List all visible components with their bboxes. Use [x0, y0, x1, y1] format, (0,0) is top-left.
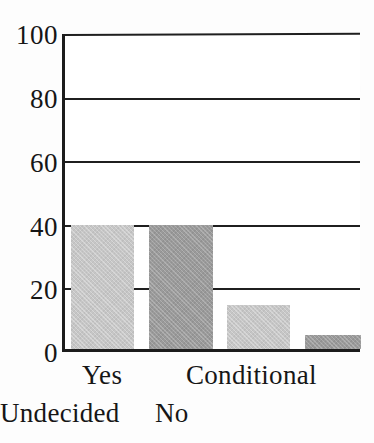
gridline-80	[65, 98, 360, 100]
x-axis-label-no: No	[155, 400, 189, 427]
gridline-100	[65, 33, 360, 36]
y-axis-tick-80: 80	[30, 86, 58, 113]
y-axis-tick-100: 100	[16, 22, 58, 49]
bar-yes[interactable]	[71, 225, 134, 349]
x-axis-label-yes: Yes	[82, 362, 122, 389]
y-axis-tick-0: 0	[44, 340, 58, 367]
bar-no[interactable]	[149, 225, 213, 349]
y-axis-tick-40: 40	[30, 214, 58, 241]
x-axis-label-conditional: Conditional	[186, 362, 317, 389]
bar-conditional[interactable]	[227, 305, 290, 350]
y-axis-tick-60: 60	[30, 150, 58, 177]
bar-undecided[interactable]	[305, 335, 361, 349]
bar-chart-figure: 100 80 60 40 20 0 Yes No Conditional Und…	[0, 0, 374, 443]
x-axis-label-undecided: Undecided	[0, 400, 120, 427]
gridline-60	[65, 161, 360, 163]
y-axis-tick-20: 20	[30, 277, 58, 304]
plot-area	[62, 34, 360, 352]
